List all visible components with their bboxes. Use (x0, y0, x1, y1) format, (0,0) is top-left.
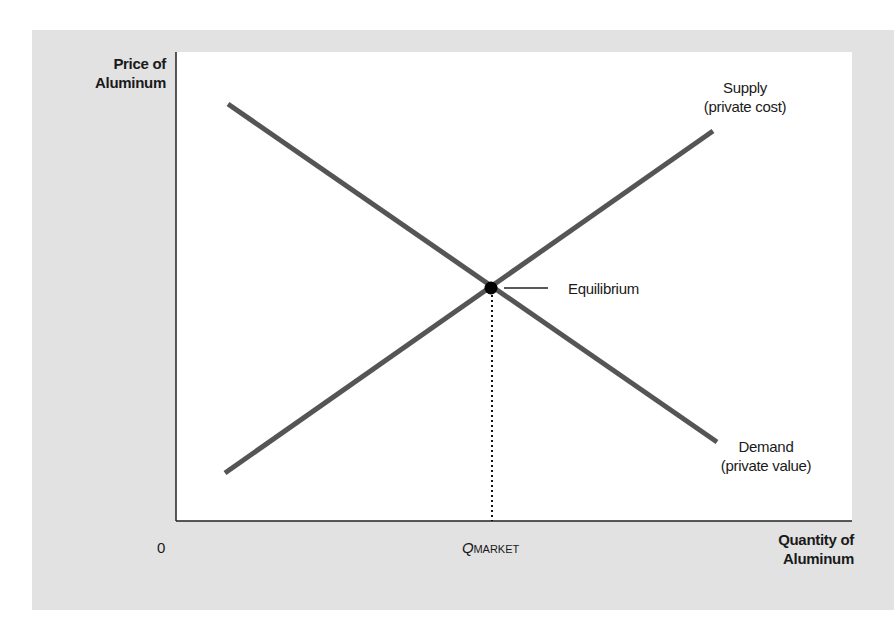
x-axis-label: Quantity of Aluminum (720, 530, 854, 568)
supply-curve (225, 131, 713, 473)
demand-curve (228, 104, 717, 442)
x-axis-label-line2: Aluminum (720, 549, 854, 568)
supply-label-line1: Supply (690, 78, 800, 97)
equilibrium-point (485, 282, 498, 295)
demand-label-line1: Demand (706, 437, 826, 456)
q-market-tick-label: QMARKET (462, 538, 519, 559)
demand-label-line2: (private value) (706, 456, 826, 475)
y-axis-label: Price of Aluminum (60, 54, 166, 92)
supply-label-line2: (private cost) (690, 97, 800, 116)
demand-label: Demand (private value) (706, 437, 826, 475)
supply-label: Supply (private cost) (690, 78, 800, 116)
equilibrium-label: Equilibrium (568, 279, 639, 298)
x-axis-label-line1: Quantity of (720, 530, 854, 549)
y-axis-label-line2: Aluminum (60, 73, 166, 92)
y-axis-label-line1: Price of (60, 54, 166, 73)
q-market-main: Q (462, 539, 473, 556)
q-market-subscript: MARKET (473, 543, 519, 555)
origin-label: 0 (157, 538, 165, 557)
